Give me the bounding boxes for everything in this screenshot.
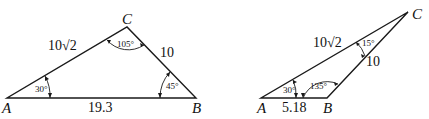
side-label-ac1: 10√2 — [48, 39, 77, 53]
side-label-ab2: 5.18 — [282, 101, 307, 115]
side-label-bc2: 10 — [366, 55, 380, 69]
side-label-ab1: 19.3 — [88, 101, 113, 115]
vertex-label-c2: C — [412, 7, 422, 22]
side-label-ac2: 10√2 — [313, 36, 342, 50]
angle-label-a2: 30° — [283, 86, 296, 95]
angle-label-b2: 135° — [310, 82, 327, 91]
vertex-label-a2: A — [257, 101, 266, 116]
angle-label-c2: 15° — [362, 39, 375, 48]
triangles-figure — [0, 0, 429, 119]
vertex-label-a1: A — [2, 101, 11, 116]
angle-label-b1: 45° — [166, 82, 179, 91]
vertex-label-b2: B — [323, 101, 332, 116]
vertex-label-b1: B — [192, 101, 201, 116]
angle-label-a1: 30° — [35, 85, 48, 94]
side-label-bc1: 10 — [160, 46, 174, 60]
vertex-label-c1: C — [122, 12, 132, 27]
angle-label-c1: 105° — [117, 40, 134, 49]
